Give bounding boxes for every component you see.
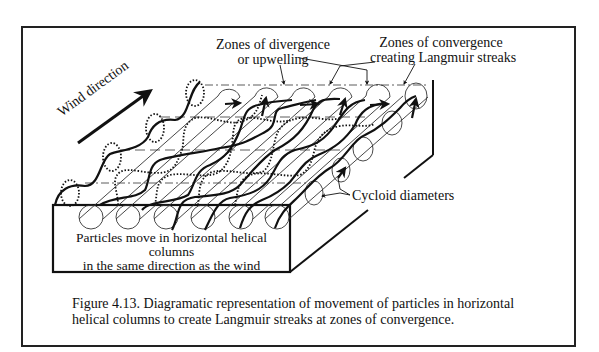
caption-line2: helical columns to create Langmuir strea… [72, 312, 514, 328]
convergence-label: Zones of convergence creating Langmuir s… [370, 35, 512, 65]
right-face [290, 80, 433, 272]
convergence-label-line1: Zones of convergence [370, 35, 512, 50]
front-face-line2: in the same direction as the wind [55, 259, 288, 273]
column-circles [79, 205, 289, 229]
divergence-label: Zones of divergence or upwelling [216, 37, 330, 67]
divergence-label-line2: or upwelling [216, 52, 330, 67]
front-face-line1: Particles move in horizontal helical col… [55, 231, 288, 259]
caption-line1: Figure 4.13. Diagramatic representation … [72, 296, 514, 312]
figure-caption: Figure 4.13. Diagramatic representation … [72, 296, 514, 328]
divergence-label-line1: Zones of divergence [216, 37, 330, 52]
cycloid-label: Cycloid diameters [352, 188, 454, 203]
front-face-text: Particles move in horizontal helical col… [55, 231, 288, 273]
convergence-label-line2: creating Langmuir streaks [370, 50, 512, 65]
